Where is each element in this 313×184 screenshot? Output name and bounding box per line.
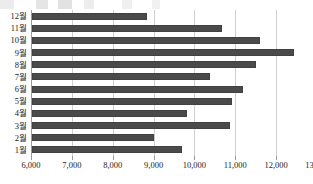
bar-series — [31, 10, 313, 156]
y-axis-tick-label: 9월 — [15, 47, 27, 59]
bar — [32, 73, 210, 80]
y-axis-labels: 12월11월10월9월8월7월6월5월4월3월2월1월 — [0, 10, 29, 156]
x-axis-tick-label: 11,000 — [224, 160, 247, 170]
bar — [32, 49, 294, 56]
bar-row — [32, 22, 222, 34]
bar — [32, 122, 230, 129]
bar-row — [32, 95, 232, 107]
bar — [32, 134, 154, 141]
bar-row — [32, 34, 260, 46]
x-axis-tick-label: 10,000 — [183, 160, 206, 170]
bar — [32, 37, 260, 44]
bar-row — [32, 132, 154, 144]
y-axis-tick-label: 3월 — [15, 120, 27, 132]
bar — [32, 86, 243, 93]
bar — [32, 110, 187, 117]
y-axis-tick-label: 5월 — [15, 95, 27, 107]
bar-row — [32, 59, 256, 71]
bar — [32, 61, 256, 68]
y-axis-tick-label: 6월 — [15, 83, 27, 95]
bar — [32, 98, 232, 105]
x-axis-labels: 6,0007,0008,0009,00010,00011,00012,00013… — [0, 160, 313, 174]
y-axis-tick-label: 1월 — [15, 144, 27, 156]
y-axis-tick-label: 8월 — [15, 59, 27, 71]
bar-row — [32, 47, 294, 59]
bar-row — [32, 120, 230, 132]
bar-row — [32, 71, 210, 83]
bar — [32, 13, 147, 20]
bar-row — [32, 144, 182, 156]
bar — [32, 146, 182, 153]
scan-artifact-band — [0, 0, 313, 9]
x-axis-tick-label: 7,000 — [62, 160, 81, 170]
x-axis-tick-label: 13,000 — [305, 160, 313, 170]
y-axis-tick-label: 7월 — [15, 71, 27, 83]
bar-chart: 12월11월10월9월8월7월6월5월4월3월2월1월 6,0007,0008,… — [0, 0, 313, 184]
x-axis-tick-label: 6,000 — [21, 160, 40, 170]
bar-row — [32, 10, 147, 22]
y-axis-tick-label: 12월 — [11, 10, 28, 22]
y-axis-tick-label: 11월 — [11, 22, 27, 34]
plot-area — [31, 10, 313, 156]
y-axis-tick-label: 10월 — [11, 34, 28, 46]
x-axis-tick-label: 12,000 — [264, 160, 287, 170]
x-axis-tick-label: 9,000 — [144, 160, 163, 170]
x-axis-tick-label: 8,000 — [103, 160, 122, 170]
bar-row — [32, 83, 243, 95]
bar-row — [32, 107, 187, 119]
bar — [32, 25, 222, 32]
y-axis-tick-label: 2월 — [15, 132, 27, 144]
y-axis-tick-label: 4월 — [15, 107, 27, 119]
